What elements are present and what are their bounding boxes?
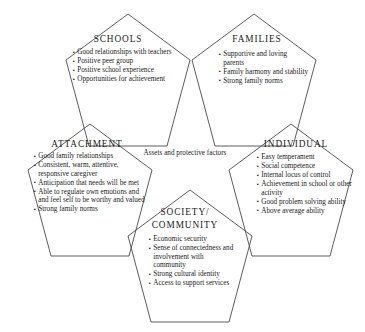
node-families-list: Supportive and loving parents Family har…: [219, 50, 309, 85]
node-individual-list: Easy temperament Social competence Inter…: [257, 153, 352, 215]
list-item: Family harmony and stability: [219, 68, 309, 77]
list-item: Able to regulate own emotions and and fe…: [34, 188, 148, 205]
list-item: Sense of connectedness and involvement w…: [149, 244, 237, 270]
center-label: Assets and protective factors: [133, 149, 237, 158]
list-item: Easy temperament: [257, 153, 352, 162]
list-item: Good problem solving ability: [257, 198, 352, 207]
list-item: Economic security: [149, 235, 237, 244]
list-item: Social competence: [257, 162, 352, 171]
list-item: Above average ability: [257, 207, 352, 216]
node-attachment-list: Good family relationships Consistent, wa…: [34, 152, 148, 214]
diagram-canvas: SCHOOLS Good relationships with teachers…: [0, 0, 365, 332]
list-item: Opportunities for achievement: [73, 75, 174, 84]
node-individual-title: INDIVIDUAL: [240, 138, 352, 150]
node-individual: INDIVIDUAL Easy temperament Social compe…: [240, 138, 352, 216]
list-item: Good family relationships: [34, 152, 148, 161]
node-families-title: FAMILIES: [205, 33, 309, 45]
list-item: Supportive and loving parents: [219, 50, 309, 67]
list-item: Strong family norms: [34, 205, 148, 214]
list-item: Anticipation that needs will be met: [34, 179, 148, 188]
list-item: Access to support services: [149, 279, 237, 288]
node-schools-title: SCHOOLS: [62, 33, 174, 45]
node-attachment-title: ATTACHMENT: [26, 138, 148, 150]
node-society-list: Economic security Sense of connectedness…: [149, 235, 237, 288]
node-society-title: SOCIETY/ COMMUNITY: [133, 206, 237, 232]
node-attachment: ATTACHMENT Good family relationships Con…: [26, 138, 148, 214]
node-schools: SCHOOLS Good relationships with teachers…: [62, 33, 174, 84]
list-item: Positive peer group: [73, 57, 174, 66]
node-families: FAMILIES Supportive and loving parents F…: [205, 33, 309, 86]
list-item: Achievement in school or other activity: [257, 180, 352, 197]
list-item: Consistent, warm, attentive, responsive …: [34, 161, 148, 178]
list-item: Strong family norms: [219, 77, 309, 86]
list-item: Internal locus of control: [257, 171, 352, 180]
node-schools-list: Good relationships with teachers Positiv…: [73, 48, 174, 84]
node-society: SOCIETY/ COMMUNITY Economic security Sen…: [133, 206, 237, 288]
list-item: Good relationships with teachers: [73, 48, 174, 57]
list-item: Positive school experience: [73, 66, 174, 75]
list-item: Strong cultural identity: [149, 270, 237, 279]
